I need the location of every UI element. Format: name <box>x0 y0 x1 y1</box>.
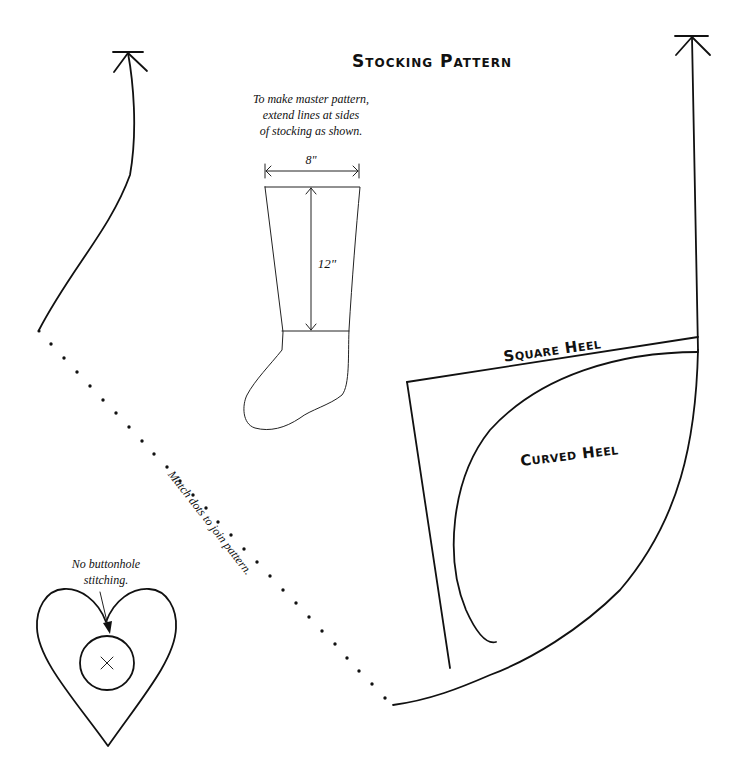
page-title: Stocking Pattern <box>352 51 512 71</box>
arrow-down-icon <box>103 621 112 634</box>
join-dot-start <box>37 329 40 332</box>
stocking-outline <box>244 187 360 430</box>
heart-diagram: No buttonhole stitching. <box>37 557 176 746</box>
left-pattern-edge <box>37 52 147 333</box>
note-line: of stocking as shown. <box>260 124 363 138</box>
width-label: 8" <box>305 153 317 167</box>
heart-note-line: No buttonhole <box>71 557 141 571</box>
square-heel-label: Square Heel <box>502 334 602 366</box>
curved-heel: Curved Heel <box>454 352 698 642</box>
curved-heel-curve <box>454 352 698 642</box>
join-note: Match dots to join pattern. <box>165 467 256 578</box>
right-edge-curve <box>393 350 698 705</box>
stocking-size-diagram: 8" 12" <box>244 153 360 430</box>
length-label: 12" <box>318 256 337 271</box>
master-pattern-note: To make master pattern, extend lines at … <box>253 92 369 138</box>
note-line: To make master pattern, <box>253 92 369 106</box>
right-edge-line <box>692 37 698 350</box>
curved-heel-label: Curved Heel <box>519 440 619 470</box>
pointer-line <box>100 592 108 626</box>
stocking-pattern-sheet: Stocking Pattern Square Heel Curved Heel <box>0 0 735 775</box>
heart-note-line: stitching. <box>84 573 128 587</box>
note-line: extend lines at sides <box>263 108 360 122</box>
square-heel-side <box>407 382 450 668</box>
left-edge-curve <box>39 53 134 330</box>
x-mark-icon <box>101 657 113 669</box>
heart-icon <box>37 589 176 746</box>
